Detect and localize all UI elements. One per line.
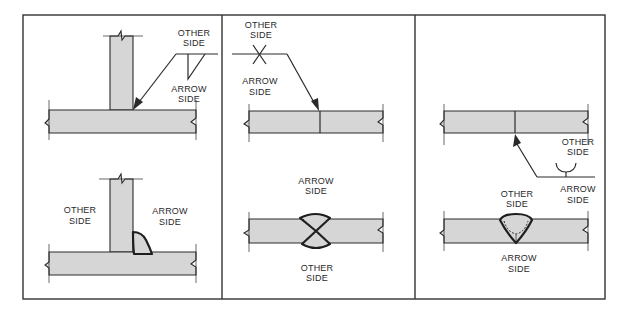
butt-joint-weld-view: ARROW SIDE OTHER SIDE (244, 176, 383, 283)
label-arrow-side-line1: ARROW (171, 84, 207, 94)
tee-joint-weld-view: OTHER SIDE ARROW SIDE (45, 174, 196, 283)
label-arrow-side-line2: SIDE (159, 217, 181, 227)
panel-butt-u-groove: OTHER SIDE ARROW SIDE OTHER SIDE ARROW S… (440, 104, 596, 274)
butt-plates (244, 111, 383, 133)
tee-joint-symbol-view: OTHER SIDE ARROW SIDE (45, 28, 218, 140)
weld-symbol-diagram: OTHER SIDE ARROW SIDE OTHER SIDE ARROW S… (0, 0, 634, 318)
label-other-side-line1: OTHER (178, 28, 211, 38)
label-other-side-line2: SIDE (250, 30, 272, 40)
label-other-side-line1: OTHER (64, 205, 97, 215)
arrow-leader (136, 54, 176, 106)
u-groove-symbol-icon (556, 163, 576, 172)
label-arrow-side-line1: ARROW (298, 176, 334, 186)
label-arrow-side-line1: ARROW (242, 76, 278, 86)
butt-joint-symbol-view: OTHER SIDE ARROW SIDE (232, 20, 383, 142)
base-plate (45, 252, 196, 275)
label-other-side-line2: SIDE (306, 273, 328, 283)
vertical-member (110, 174, 133, 252)
fillet-weld-bead (133, 232, 152, 254)
label-other-side-line1: OTHER (501, 189, 534, 199)
label-arrow-side-line2: SIDE (178, 94, 200, 104)
label-other-side-line1: OTHER (245, 20, 278, 30)
label-other-side-line2: SIDE (183, 38, 205, 48)
base-plate (45, 110, 196, 133)
label-arrow-side-line1: ARROW (560, 184, 596, 194)
butt-joint-weld-view: OTHER SIDE ARROW SIDE (440, 189, 588, 274)
label-other-side-line1: OTHER (301, 263, 334, 273)
label-arrow-side-line2: SIDE (567, 195, 589, 205)
panel-butt-double-v: OTHER SIDE ARROW SIDE ARROW SIDE OTHER S… (232, 20, 383, 283)
vertical-member (110, 31, 133, 110)
label-other-side-line2: SIDE (506, 199, 528, 209)
panel-tee-fillet: OTHER SIDE ARROW SIDE OTHER SIDE ARROW S… (45, 28, 218, 283)
arrow-leader (517, 144, 537, 177)
label-arrow-side-line2: SIDE (508, 264, 530, 274)
fillet-weld-symbol-icon (188, 54, 205, 79)
arrow-leader (287, 54, 316, 106)
label-other-side-line2: SIDE (69, 216, 91, 226)
label-other-side-line1: OTHER (562, 137, 595, 147)
label-arrow-side-line2: SIDE (249, 87, 271, 97)
label-other-side-line2: SIDE (567, 147, 589, 157)
label-arrow-side-line1: ARROW (152, 206, 188, 216)
label-arrow-side-line1: ARROW (501, 253, 537, 263)
butt-plates (440, 111, 588, 133)
label-arrow-side-line2: SIDE (305, 186, 327, 196)
